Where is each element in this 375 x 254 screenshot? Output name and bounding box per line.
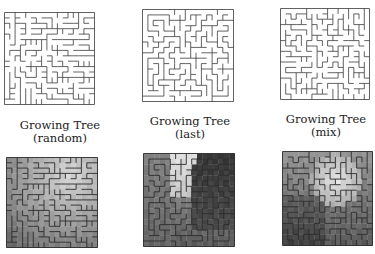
caption-subtitle: (mix) [266, 126, 375, 139]
maze-last [142, 9, 234, 102]
caption-subtitle: (random) [0, 132, 120, 145]
caption-last: Growing Tree (last) [130, 115, 250, 141]
maze-heatmap-mix [282, 151, 373, 246]
maze-mix [280, 8, 370, 100]
maze-random [4, 12, 95, 105]
caption-subtitle: (last) [130, 128, 250, 141]
caption-random: Growing Tree (random) [0, 119, 120, 145]
maze-heatmap-last [143, 153, 235, 247]
caption-mix: Growing Tree (mix) [266, 113, 375, 139]
maze-heatmap-random [6, 157, 98, 248]
